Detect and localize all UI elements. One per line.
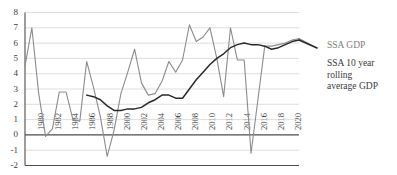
- legend-item-ssa-gdp: SSA GDP: [327, 40, 365, 52]
- series-lines: [25, 25, 299, 157]
- chart-figure: 876543210-1-2 19801982198419861988200020…: [0, 0, 397, 175]
- legend-item-ssa-rolling-average: SSA 10 year rolling average GDP: [327, 58, 397, 93]
- legend-line-markers: [299, 39, 317, 48]
- legend-connector-ssa-rolling-average: [299, 40, 317, 48]
- series-line-ssa-rolling-average: [87, 40, 299, 110]
- gridlines: [25, 13, 299, 166]
